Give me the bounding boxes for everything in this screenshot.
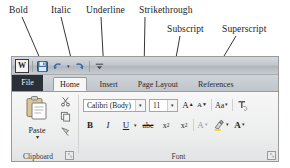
callout-label-strikethrough: Strikethrough xyxy=(139,5,193,15)
superscript-button[interactable]: x2 xyxy=(177,118,191,132)
ribbon-tab-strip: File Home Insert Page Layout References xyxy=(12,75,278,92)
group-clipboard: Paste ▾ xyxy=(12,92,78,162)
undo-icon[interactable] xyxy=(51,60,64,73)
font-size-combo[interactable]: 11 ▾ xyxy=(149,99,178,112)
copy-icon[interactable] xyxy=(59,110,72,123)
tab-page-layout[interactable]: Page Layout xyxy=(131,77,185,91)
font-row1-separator-2 xyxy=(232,99,233,111)
font-name-dropdown-arrow[interactable]: ▾ xyxy=(135,100,145,111)
strikethrough-glyph: abc xyxy=(142,121,153,130)
superscript-mark: 2 xyxy=(185,122,188,128)
change-case-button[interactable]: Aa ▾ xyxy=(214,98,230,112)
font-row1-separator xyxy=(211,99,212,111)
redo-icon[interactable] xyxy=(73,60,86,73)
font-size-dropdown-arrow[interactable]: ▾ xyxy=(167,100,177,111)
clear-formatting-button[interactable] xyxy=(235,98,250,112)
tab-insert[interactable]: Insert xyxy=(93,77,125,91)
tab-home[interactable]: Home xyxy=(53,77,87,91)
clipboard-mini-buttons xyxy=(59,95,72,138)
quick-access-toolbar: W ▾ xyxy=(15,59,106,73)
group-font: Calibri (Body) ▾ 11 ▾ A ▲ A xyxy=(79,92,278,162)
paste-button[interactable]: Paste ▾ xyxy=(17,95,57,140)
underline-button[interactable]: U xyxy=(119,118,133,132)
title-bar: W ▾ xyxy=(12,57,278,75)
qat-divider-2 xyxy=(89,61,90,72)
underline-dropdown-caret[interactable]: ▾ xyxy=(133,118,138,132)
word-logo-icon[interactable]: W xyxy=(15,59,29,73)
font-row2-separator xyxy=(193,119,194,131)
italic-button[interactable]: I xyxy=(101,118,115,132)
subscript-mark: 2 xyxy=(167,122,170,128)
clipboard-dialog-launcher[interactable]: ⤡ xyxy=(65,151,74,160)
callout-label-superscript: Superscript xyxy=(222,24,266,34)
font-color-button[interactable]: A ▾ xyxy=(233,118,247,132)
tab-references[interactable]: References xyxy=(191,77,241,91)
group-separator-2 xyxy=(278,95,279,153)
group-label-font: Font xyxy=(79,152,278,161)
paste-dropdown-arrow[interactable]: ▾ xyxy=(17,135,57,140)
font-size-value: 11 xyxy=(150,101,167,110)
format-painter-icon[interactable] xyxy=(59,125,72,138)
callout-label-bold: Bold xyxy=(9,5,28,15)
callout-label-subscript: Subscript xyxy=(167,24,204,34)
group-label-clipboard: Clipboard xyxy=(12,152,64,161)
subscript-button[interactable]: x2 xyxy=(159,118,173,132)
ribbon-tabs: File Home Insert Page Layout References xyxy=(12,75,241,91)
customize-quick-access-icon[interactable] xyxy=(93,60,106,73)
shrink-font-button[interactable]: A ▼ xyxy=(195,98,209,112)
bold-button[interactable]: B xyxy=(83,118,97,132)
change-case-glyph: Aa xyxy=(215,101,224,110)
annotated-screenshot: Bold Italic Underline Strikethrough Subs… xyxy=(0,0,290,168)
font-name-combo[interactable]: Calibri (Body) ▾ xyxy=(83,99,146,112)
save-icon[interactable] xyxy=(36,60,49,73)
clipboard-icon xyxy=(24,95,50,121)
text-highlight-color-button[interactable]: ▾ xyxy=(212,118,231,132)
qat-divider xyxy=(32,61,33,72)
strikethrough-button[interactable]: abc xyxy=(141,118,155,132)
cut-icon[interactable] xyxy=(59,95,72,108)
highlight-caret[interactable]: ▾ xyxy=(225,118,230,132)
grow-font-button[interactable]: A ▲ xyxy=(181,98,195,112)
font-name-value: Calibri (Body) xyxy=(84,101,135,110)
callout-label-underline: Underline xyxy=(86,5,125,15)
font-group-row-1: Calibri (Body) ▾ 11 ▾ A ▲ A xyxy=(83,98,250,112)
tab-file[interactable]: File xyxy=(12,75,43,91)
undo-dropdown-caret[interactable]: ▾ xyxy=(66,60,71,72)
font-color-caret[interactable]: ▾ xyxy=(241,118,246,132)
font-group-row-2: B I U ▾ abc x2 x2 xyxy=(83,118,247,132)
change-case-caret[interactable]: ▾ xyxy=(224,98,229,112)
ribbon-body: Paste ▾ xyxy=(12,92,278,162)
text-effects-button[interactable]: A ▾ xyxy=(196,118,210,132)
word-ribbon-window: W ▾ xyxy=(11,56,279,162)
text-effects-caret[interactable]: ▾ xyxy=(204,118,209,132)
callout-label-italic: Italic xyxy=(51,5,71,15)
font-dialog-launcher[interactable]: ⤡ xyxy=(267,151,276,160)
